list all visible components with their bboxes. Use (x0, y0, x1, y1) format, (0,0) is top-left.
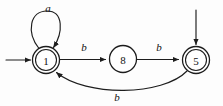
transition-label-b-1-to-8: b (81, 41, 87, 53)
state-1-label: 1 (43, 55, 49, 67)
state-8-label: 8 (120, 54, 126, 66)
transition-label-a: a (45, 2, 51, 14)
state-node-5[interactable]: 5 (183, 47, 210, 74)
state-node-8[interactable]: 8 (110, 46, 137, 73)
transition-8-to-5: b (137, 41, 179, 60)
transition-label-b-5-to-1: b (114, 91, 120, 103)
transition-1-to-8: b (60, 41, 106, 60)
state-5-label: 5 (193, 55, 199, 67)
transition-label-b-8-to-5: b (156, 41, 162, 53)
automaton-canvas: a b b b 1 8 (0, 0, 223, 106)
state-node-1[interactable]: 1 (33, 47, 60, 74)
automaton-diagram: a b b b 1 8 (0, 0, 223, 106)
transition-5-to-1: b (57, 71, 188, 103)
transition-1-to-1-self-loop: a (31, 2, 60, 49)
